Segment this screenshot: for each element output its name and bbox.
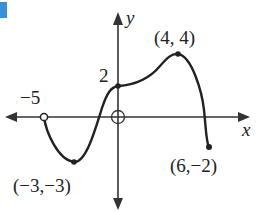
y-intercept-label: 2 [99,66,109,85]
end-point-marker [206,144,212,150]
min-point-label: (−3,−3) [13,176,71,195]
y-axis-down-arrow-icon [113,198,123,210]
max-point-label: (4, 4) [154,28,195,47]
function-curve [44,54,209,162]
end-point-label: (6,−2) [170,156,217,175]
y-axis-up-arrow-icon [113,12,123,25]
y-axis-label: y [126,8,134,27]
max-point-marker [175,51,181,57]
y-intercept-marker [115,83,121,89]
x-axis-label: x [242,120,250,139]
x-axis-left-arrow-icon [5,112,17,122]
neg-five-label: −5 [20,88,40,107]
min-point-marker [71,159,77,165]
open-endpoint-marker [40,113,47,120]
